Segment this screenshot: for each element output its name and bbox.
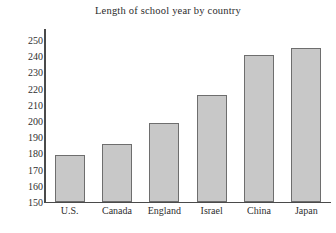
- category-label: U.S.: [61, 205, 79, 216]
- category-label: Israel: [201, 205, 223, 216]
- category-label: England: [148, 205, 181, 216]
- category-label: China: [247, 205, 271, 216]
- category-label: Canada: [102, 205, 132, 216]
- chart-figure: Length of school year by country 1501601…: [0, 0, 336, 233]
- x-axis-category-labels: U.S.CanadaEnglandIsraelChinaJapan: [0, 0, 336, 233]
- category-label: Japan: [295, 205, 318, 216]
